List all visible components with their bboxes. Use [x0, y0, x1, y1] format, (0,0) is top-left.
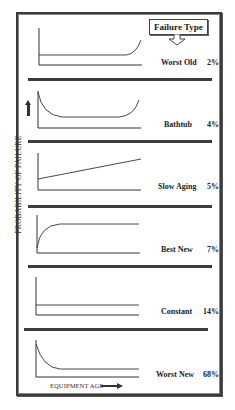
- failure-name: Worst New: [156, 370, 194, 379]
- down-arrow-icon: [166, 34, 188, 46]
- diagram-frame: [16, 12, 222, 396]
- up-arrow-icon: [27, 104, 30, 116]
- failure-percent: 5%: [207, 182, 219, 191]
- separator: [28, 265, 212, 268]
- separator: [24, 328, 208, 331]
- x-axis-label: EQUIPMENT AGE: [50, 382, 103, 389]
- failure-percent: 14%: [203, 307, 219, 316]
- chart-best-new: [36, 215, 141, 255]
- failure-percent: 7%: [207, 245, 219, 254]
- failure-name: Slow Aging: [158, 182, 196, 191]
- y-axis-label: PROBABILITY OF FAILURE: [14, 115, 23, 255]
- chart-slow-aging: [37, 153, 142, 191]
- chart-constant: [35, 277, 140, 317]
- separator: [28, 78, 212, 81]
- failure-percent: 68%: [203, 370, 219, 379]
- chart-worst-new: [35, 340, 140, 378]
- failure-name: Bathtub: [164, 120, 192, 129]
- failure-name: Best New: [161, 245, 193, 254]
- separator: [28, 140, 212, 143]
- chart-bathtub: [37, 91, 142, 129]
- right-arrow-icon: [101, 383, 123, 389]
- failure-name: Constant: [161, 307, 192, 316]
- failure-type-title-box: Failure Type: [149, 19, 208, 35]
- failure-name: Worst Old: [161, 58, 197, 67]
- separator: [28, 205, 212, 208]
- chart-worst-old: [38, 28, 143, 68]
- failure-percent: 4%: [207, 120, 219, 129]
- failure-percent: 2%: [207, 58, 219, 67]
